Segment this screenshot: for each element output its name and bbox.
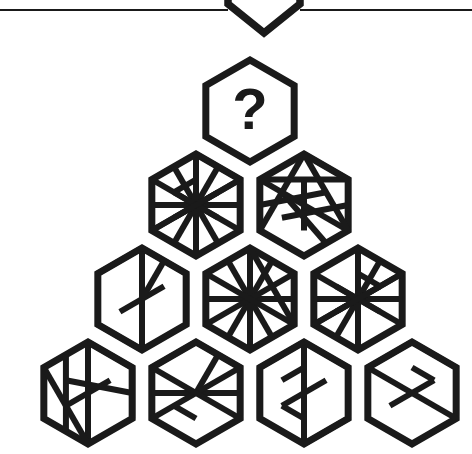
hex-r4-1: [44, 342, 132, 444]
partial-hexagon-above-icon: [228, 0, 300, 33]
hex-r4-3: [260, 342, 348, 444]
puzzle-canvas: ?: [0, 0, 472, 454]
hex-r3-middle: [206, 248, 294, 350]
hex-r3-left: [98, 248, 186, 350]
hex-r2-left: [152, 154, 240, 256]
hexagon-pyramid-figure: ?: [0, 0, 472, 454]
hexagon-tiles-layer: ?: [44, 60, 456, 444]
hex-r3-right: [314, 248, 402, 350]
hex-question[interactable]: ?: [206, 60, 294, 162]
question-mark-label: ?: [232, 76, 267, 141]
hex-r4-4: [368, 342, 456, 444]
hex-r4-2: [152, 342, 240, 444]
hex-r2-right: [260, 154, 348, 256]
